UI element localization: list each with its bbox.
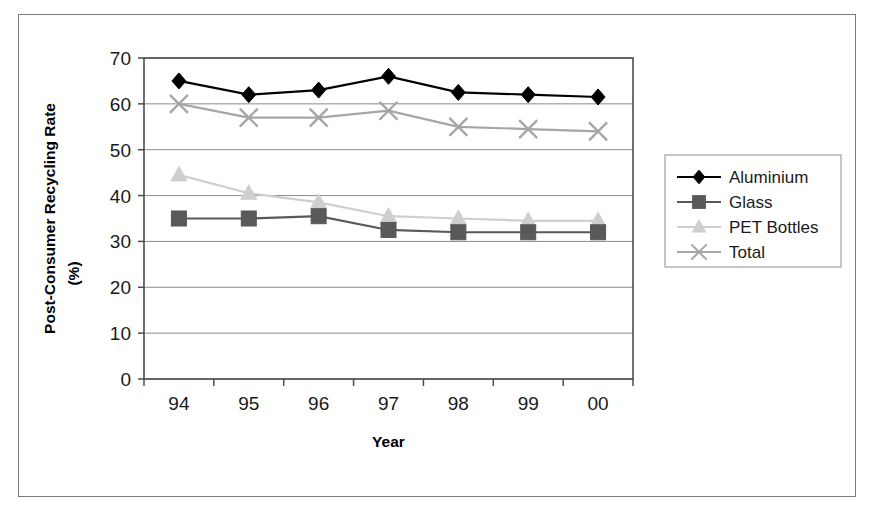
y-axis-tick-label: 30 (110, 231, 131, 252)
x-axis-tick-label: 00 (588, 393, 609, 414)
figure-frame: 01020304050607094959697989900YearPost-Co… (18, 14, 856, 497)
marker-square (521, 225, 536, 240)
y-axis-tick-label: 20 (110, 277, 131, 298)
x-axis-tick-label: 99 (518, 393, 539, 414)
marker-diamond (312, 82, 326, 98)
marker-diamond (242, 87, 256, 103)
line-chart: 01020304050607094959697989900YearPost-Co… (19, 15, 855, 496)
legend-label: Aluminium (729, 168, 808, 187)
series-total (170, 95, 607, 141)
y-axis-tick-label: 10 (110, 323, 131, 344)
series-aluminium (172, 68, 605, 105)
x-axis-tick-label: 94 (168, 393, 190, 414)
y-axis-tick-label: 70 (110, 48, 131, 69)
marker-square (171, 211, 186, 226)
marker-diamond (521, 87, 535, 103)
x-axis-tick-label: 96 (308, 393, 329, 414)
marker-triangle (171, 166, 187, 181)
series-line (179, 104, 598, 132)
legend-label: Glass (729, 193, 772, 212)
marker-square (591, 225, 606, 240)
y-axis-tick-label: 0 (120, 369, 131, 390)
y-axis-title: Post-Consumer Recycling Rate (41, 103, 58, 334)
marker-diamond (382, 68, 396, 84)
legend: AluminiumGlassPET BottlesTotal (665, 155, 841, 267)
marker-diamond (451, 84, 465, 100)
y-axis-tick-label: 50 (110, 140, 131, 161)
y-axis-tick-label: 40 (110, 186, 131, 207)
marker-square (381, 222, 396, 237)
marker-square (451, 225, 466, 240)
x-axis-title: Year (372, 433, 405, 450)
marker-diamond (591, 89, 605, 105)
x-axis-tick-label: 95 (238, 393, 259, 414)
x-axis-tick-label: 97 (378, 393, 399, 414)
legend-label: PET Bottles (729, 218, 818, 237)
x-axis-tick-label: 98 (448, 393, 469, 414)
marker-diamond (172, 73, 186, 89)
marker-square (693, 196, 706, 209)
legend-label: Total (729, 243, 765, 262)
y-axis-title-unit: (%) (65, 261, 82, 285)
marker-square (311, 209, 326, 224)
y-axis-tick-label: 60 (110, 94, 131, 115)
marker-square (241, 211, 256, 226)
